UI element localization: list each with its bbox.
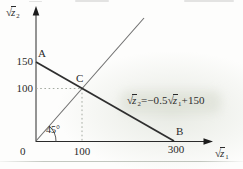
equation-lhs-radical: √z2 [127,94,141,106]
y-axis-arrow-icon [33,6,40,16]
page-rule [0,161,243,162]
figure-canvas: √z2 150 A 100 C 45° 0 100 B 300 √z1 √z2=… [0,0,243,169]
equation-coefficient: −0.5 [147,94,167,106]
plot-lines [0,0,243,169]
y-tick-100: 100 [11,83,33,94]
line-equation: √z2=−0.5√z1+150 [127,94,205,108]
x-axis-arrow-icon [204,138,214,145]
x-tick-300: 300 [164,144,188,155]
angle-label: 45° [46,125,60,135]
y-axis-radical: √z2 [6,6,20,18]
equation-constant: +150 [182,94,205,106]
point-label-a: A [38,48,46,59]
origin-label: 0 [20,146,26,157]
y-axis-label: √z2 [6,6,20,20]
forty-five-degree-line [36,18,144,141]
point-label-b: B [176,126,183,137]
y-tick-150: 150 [11,56,33,67]
x-axis-radical: √z1 [215,147,229,159]
equation-rhs-radical: √z1 [168,94,182,106]
y-axis-subscript: 2 [16,12,19,19]
point-label-c: C [76,73,83,84]
x-axis-subscript: 1 [225,153,228,160]
x-tick-100: 100 [70,146,94,157]
x-axis-label: √z1 [215,147,229,161]
